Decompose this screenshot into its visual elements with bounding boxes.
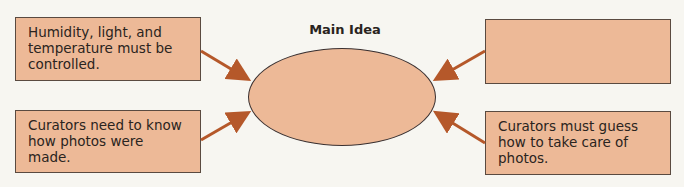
connector-arrows <box>0 0 684 187</box>
arrow-bottom-right <box>438 114 485 143</box>
arrow-bottom-left <box>201 114 246 140</box>
arrow-top-left <box>201 51 246 78</box>
arrow-top-right <box>438 51 485 78</box>
